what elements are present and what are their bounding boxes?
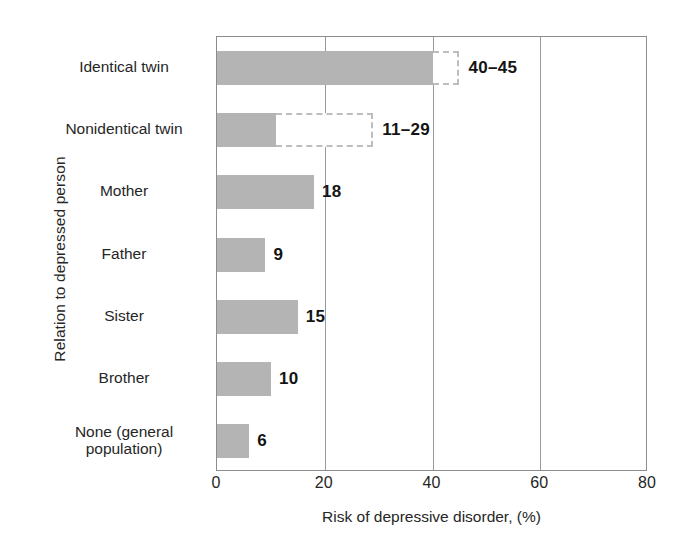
category-label: None (generalpopulation) — [44, 423, 204, 458]
category-label: Identical twin — [44, 58, 204, 75]
bar-row[interactable]: 40–45 — [217, 51, 648, 85]
bar-fill — [217, 238, 265, 272]
x-tick-label-60: 60 — [530, 474, 548, 492]
x-tick-label-40: 40 — [423, 474, 441, 492]
bar-row[interactable]: 11–29 — [217, 113, 648, 147]
bar-fill — [217, 113, 276, 147]
bar-fill — [217, 362, 271, 396]
bar-row[interactable]: 18 — [217, 175, 648, 209]
bar-row[interactable]: 15 — [217, 300, 648, 334]
category-label: Mother — [44, 183, 204, 200]
bar-value-label: 9 — [273, 245, 283, 265]
bar-fill — [217, 51, 433, 85]
bar-value-label: 18 — [322, 182, 342, 202]
category-label: Sister — [44, 307, 204, 324]
x-axis-tick-labels: 020406080 — [216, 474, 647, 500]
bar-fill — [217, 300, 298, 334]
x-tick-label-20: 20 — [315, 474, 333, 492]
bar-range-outline — [433, 51, 460, 85]
bar-value-label: 15 — [306, 307, 326, 327]
bar-value-label: 11–29 — [382, 120, 430, 140]
bar-row[interactable]: 10 — [217, 362, 648, 396]
bar-fill — [217, 424, 249, 458]
bar-row[interactable]: 6 — [217, 424, 648, 458]
x-tick-label-80: 80 — [638, 474, 656, 492]
bar-fill — [217, 175, 314, 209]
category-label: Nonidentical twin — [44, 121, 204, 138]
category-label: Brother — [44, 369, 204, 386]
bar-value-label: 6 — [257, 431, 267, 451]
bar-value-label: 10 — [279, 369, 299, 389]
x-tick-label-0: 0 — [212, 474, 221, 492]
x-axis-title: Risk of depressive disorder, (%) — [216, 508, 647, 526]
category-label: Father — [44, 245, 204, 262]
bar-value-label: 40–45 — [468, 58, 517, 78]
bar-row[interactable]: 9 — [217, 238, 648, 272]
y-axis-tick-labels: Identical twinNonidentical twinMotherFat… — [46, 36, 210, 471]
chart-figure: Relation to depressed person Identical t… — [0, 0, 686, 556]
bar-range-outline — [276, 113, 373, 147]
plot-area: 40–4511–2918915106 — [216, 36, 647, 471]
